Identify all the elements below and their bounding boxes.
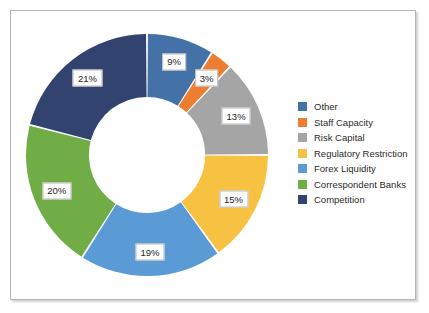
legend-swatch-icon xyxy=(298,133,307,142)
legend-item-label: Risk Capital xyxy=(314,132,365,143)
data-label: 20% xyxy=(42,182,71,199)
legend-swatch-icon xyxy=(298,149,307,158)
data-label: 19% xyxy=(136,244,165,261)
legend-item[interactable]: Forex Liquidity xyxy=(298,161,426,177)
data-label: 13% xyxy=(222,108,251,125)
legend-item-label: Staff Capacity xyxy=(314,117,373,128)
donut-slice[interactable] xyxy=(30,34,147,140)
legend-item[interactable]: Staff Capacity xyxy=(298,115,426,131)
legend-swatch-icon xyxy=(298,164,307,173)
data-label: 21% xyxy=(73,70,102,87)
legend-item-label: Correspondent Banks xyxy=(314,179,406,190)
legend-item[interactable]: Regulatory Restriction xyxy=(298,146,426,162)
legend-item[interactable]: Other xyxy=(298,99,426,115)
legend-item[interactable]: Competition xyxy=(298,192,426,208)
legend: OtherStaff CapacityRisk CapitalRegulator… xyxy=(298,99,426,208)
legend-item-label: Other xyxy=(314,101,338,112)
legend-swatch-icon xyxy=(298,195,307,204)
legend-item[interactable]: Correspondent Banks xyxy=(298,177,426,193)
legend-item-label: Competition xyxy=(314,194,365,205)
legend-item-label: Forex Liquidity xyxy=(314,163,376,174)
legend-item[interactable]: Risk Capital xyxy=(298,130,426,146)
legend-swatch-icon xyxy=(298,180,307,189)
donut-slice-group xyxy=(26,34,268,276)
data-label: 3% xyxy=(195,70,219,87)
data-label: 15% xyxy=(219,191,248,208)
legend-swatch-icon xyxy=(298,118,307,127)
legend-swatch-icon xyxy=(298,102,307,111)
data-label: 9% xyxy=(162,53,186,70)
legend-item-label: Regulatory Restriction xyxy=(314,148,407,159)
